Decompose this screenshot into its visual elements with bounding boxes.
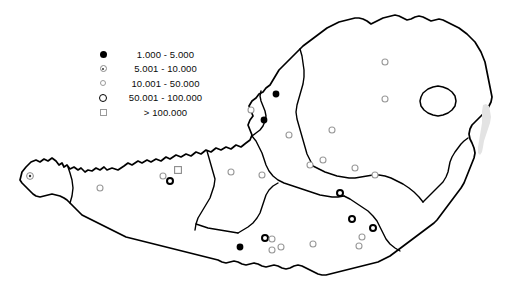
- city-point-small-open-circle: [352, 165, 358, 171]
- city-point-open-square: [175, 167, 182, 174]
- legend-label-1: 1.000 - 5.000: [114, 49, 217, 60]
- city-point-small-open-circle: [382, 59, 388, 65]
- national-border: [20, 15, 492, 275]
- city-point-small-open-circle: [307, 162, 313, 168]
- legend-item-3: 10.001 - 50.000: [92, 76, 217, 91]
- city-point-small-open-circle: [320, 157, 326, 163]
- city-point-small-open-circle: [160, 173, 166, 179]
- city-point-small-open-circle: [286, 132, 292, 138]
- legend-item-4: 50.001 - 100.000: [92, 91, 217, 106]
- city-point-small-open-circle: [248, 107, 254, 113]
- legend-item-2: 5.001 - 10.000: [92, 62, 217, 77]
- city-point-filled-circle: [273, 91, 280, 98]
- thick-ring-circle-icon: [92, 94, 114, 102]
- legend-label-4: 50.001 - 100.000: [114, 92, 217, 103]
- small-open-circle-icon: [92, 80, 114, 86]
- city-point-thick-ring-circle: [262, 235, 268, 241]
- city-point-small-open-circle: [278, 244, 284, 250]
- city-point-small-open-circle: [269, 236, 275, 242]
- city-point-thick-ring-circle: [349, 216, 355, 222]
- legend-label-3: 10.001 - 50.000: [114, 78, 217, 89]
- city-point-small-open-circle: [359, 234, 365, 240]
- city-point-small-open-circle: [310, 241, 316, 247]
- city-point-small-open-circle: [329, 127, 335, 133]
- open-square-icon: [92, 109, 114, 116]
- legend-label-2: 5.001 - 10.000: [114, 63, 217, 74]
- legend-label-5: > 100.000: [114, 107, 217, 118]
- dot-in-circle-icon: [92, 65, 114, 72]
- city-point-small-open-circle: [269, 247, 275, 253]
- city-point-small-open-circle: [228, 169, 234, 175]
- city-point-thick-ring-circle: [370, 225, 376, 231]
- city-point-small-open-circle: [259, 172, 265, 178]
- map-figure: 1.000 - 5.000 5.001 - 10.000 10.001 - 50…: [0, 0, 519, 285]
- city-point-thick-ring-circle: [167, 178, 173, 184]
- legend-item-5: > 100.000: [92, 105, 217, 120]
- legend-item-1: 1.000 - 5.000: [92, 47, 217, 62]
- city-point-filled-circle: [237, 244, 244, 251]
- city-point-small-open-circle: [382, 96, 388, 102]
- filled-circle-icon: [92, 51, 114, 58]
- city-point-filled-circle: [261, 117, 268, 124]
- legend: 1.000 - 5.000 5.001 - 10.000 10.001 - 50…: [92, 47, 217, 120]
- city-point-thick-ring-circle: [337, 190, 343, 196]
- city-point-small-open-circle: [356, 243, 362, 249]
- vienna-enclave: [420, 86, 456, 116]
- city-point-dot-in-circle: [27, 173, 34, 180]
- austria-map: [0, 0, 519, 285]
- city-point-small-open-circle: [372, 172, 378, 178]
- city-point-small-open-circle: [97, 185, 103, 191]
